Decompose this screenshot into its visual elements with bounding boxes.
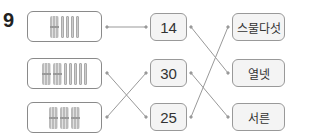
ten-bundle-icon bbox=[42, 63, 51, 85]
stick-icon bbox=[76, 16, 79, 38]
sticks-image-30[interactable] bbox=[27, 102, 102, 133]
stick-icon bbox=[61, 16, 64, 38]
ten-bundle-icon bbox=[53, 63, 62, 85]
sticks-image-14[interactable] bbox=[27, 11, 102, 42]
ten-bundle-icon bbox=[71, 107, 80, 129]
number-box-1[interactable]: 14 bbox=[150, 13, 187, 41]
stick-icon bbox=[71, 16, 74, 38]
word-box-1[interactable]: 스물다섯 bbox=[232, 13, 285, 41]
stick-icon bbox=[66, 16, 69, 38]
word-box-2[interactable]: 열넷 bbox=[232, 59, 285, 87]
ten-bundle-icon bbox=[49, 107, 58, 129]
stick-icon bbox=[84, 63, 87, 85]
word-box-3[interactable]: 서른 bbox=[232, 103, 285, 131]
sticks-image-25[interactable] bbox=[27, 58, 102, 89]
stick-icon bbox=[74, 63, 77, 85]
stick-icon bbox=[69, 63, 72, 85]
number-box-3[interactable]: 25 bbox=[150, 103, 187, 131]
number-box-2[interactable]: 30 bbox=[150, 59, 187, 87]
ten-bundle-icon bbox=[50, 16, 59, 38]
stick-icon bbox=[64, 63, 67, 85]
stick-icon bbox=[79, 63, 82, 85]
ten-bundle-icon bbox=[60, 107, 69, 129]
